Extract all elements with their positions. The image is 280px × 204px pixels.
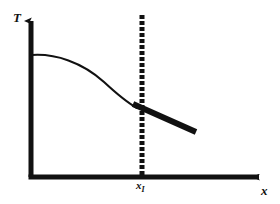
interface-label-subscript: I — [142, 185, 145, 194]
interface-position-label: xI — [136, 180, 145, 194]
solid-region-curve — [32, 55, 137, 108]
y-axis-label: T — [13, 11, 21, 24]
x-axis-label: x — [261, 184, 268, 197]
temperature-profile-figure: T x xI — [0, 0, 280, 204]
plot-canvas — [0, 0, 280, 204]
